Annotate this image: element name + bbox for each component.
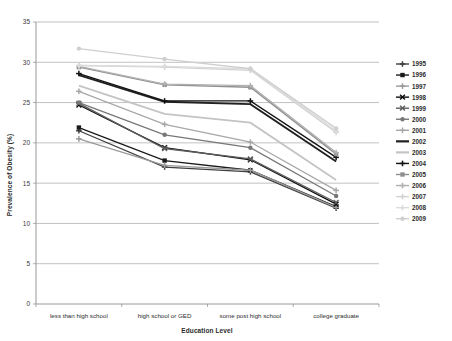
legend-label: 2005: [412, 171, 427, 178]
y-tick-label: 20: [23, 139, 31, 146]
legend-label: 1997: [412, 83, 427, 90]
x-category-label: some post high school: [220, 312, 282, 319]
legend-item-2009[interactable]: 2009: [396, 215, 427, 222]
x-category-label: high school or GED: [138, 312, 192, 319]
series-lines: [76, 46, 339, 211]
y-tick-label: 25: [23, 99, 31, 106]
series-1996: [77, 125, 339, 208]
y-tick-label: 5: [26, 260, 30, 267]
legend-item-2000[interactable]: 2000: [396, 116, 427, 123]
chart-legend[interactable]: 1995199619971998199920002001200220032004…: [396, 60, 427, 222]
y-tick-labels: 05101520253035: [23, 18, 36, 307]
legend-label: 2009: [412, 215, 427, 222]
legend-label: 2004: [412, 160, 427, 167]
series-1997: [76, 136, 339, 210]
x-category-label: less than high school: [50, 312, 108, 319]
legend-item-2004[interactable]: 2004: [396, 160, 427, 167]
legend-item-2006[interactable]: 2006: [396, 182, 427, 189]
legend-label: 1996: [412, 71, 427, 78]
legend-item-1997[interactable]: 1997: [396, 83, 427, 90]
x-axis-title: Education Level: [181, 327, 232, 334]
x-category-label: college graduate: [313, 312, 359, 319]
legend-label: 2001: [412, 127, 427, 134]
legend-item-2008[interactable]: 2008: [396, 204, 427, 211]
legend-item-2005[interactable]: 2005: [396, 171, 427, 178]
legend-label: 2002: [412, 138, 427, 145]
x-tick-marks: [36, 304, 379, 307]
y-tick-label: 0: [26, 300, 30, 307]
gridlines: [36, 22, 379, 264]
y-tick-label: 10: [23, 220, 31, 227]
legend-label: 2000: [412, 116, 427, 123]
legend-label: 2003: [412, 149, 427, 156]
legend-label: 1999: [412, 105, 427, 112]
legend-item-1996[interactable]: 1996: [396, 71, 427, 78]
obesity-prevalence-line-chart: 05101520253035 less than high schoolhigh…: [0, 0, 452, 341]
legend-label: 1998: [412, 94, 427, 101]
legend-label: 2007: [412, 193, 427, 200]
legend-item-1999[interactable]: 1999: [396, 105, 427, 112]
y-tick-label: 35: [23, 18, 31, 25]
y-axis-title: Prevalence of Obesity (%): [6, 134, 14, 216]
legend-item-2001[interactable]: 2001: [396, 127, 427, 134]
legend-item-1998[interactable]: 1998: [396, 94, 427, 101]
legend-label: 2008: [412, 204, 427, 211]
chart-canvas: 05101520253035 less than high schoolhigh…: [0, 0, 452, 341]
y-tick-label: 15: [23, 180, 31, 187]
category-labels: less than high schoolhigh school or GEDs…: [50, 312, 360, 319]
y-tick-label: 30: [23, 59, 31, 66]
legend-item-2002[interactable]: 2002: [396, 138, 427, 145]
legend-item-1995[interactable]: 1995: [396, 60, 427, 67]
legend-label: 1995: [412, 60, 427, 67]
legend-item-2003[interactable]: 2003: [396, 149, 427, 156]
legend-item-2007[interactable]: 2007: [396, 193, 427, 200]
legend-label: 2006: [412, 182, 427, 189]
